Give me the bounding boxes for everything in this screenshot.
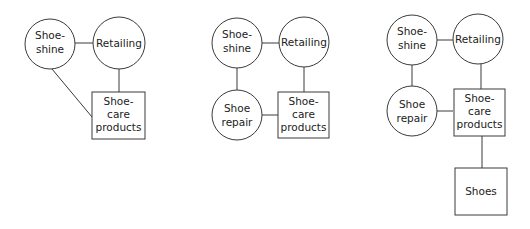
node-label: Shoes bbox=[465, 185, 497, 197]
node-label: shine bbox=[36, 43, 64, 55]
node-label: repair bbox=[222, 116, 254, 128]
diagram-2: Shoe- shine Retailing Shoe repair Shoe- … bbox=[212, 17, 329, 140]
node-label: care bbox=[292, 108, 315, 120]
node-label: products bbox=[281, 121, 327, 133]
node-label: Shoe- bbox=[465, 92, 495, 104]
node-shoe-repair: Shoe repair bbox=[212, 90, 262, 140]
node-shoeshine: Shoe- shine bbox=[212, 18, 262, 68]
node-label: products bbox=[457, 118, 503, 130]
node-label: Retailing bbox=[96, 37, 142, 49]
diagram-1: Shoe- shine Retailing Shoe- care product… bbox=[25, 17, 145, 139]
node-label: Retailing bbox=[455, 33, 501, 45]
node-shoeshine: Shoe- shine bbox=[25, 19, 75, 69]
node-label: Shoe bbox=[399, 98, 425, 110]
node-retailing: Retailing bbox=[279, 17, 329, 67]
node-retailing: Retailing bbox=[453, 14, 503, 64]
node-shoes: Shoes bbox=[455, 168, 507, 215]
node-label: Retailing bbox=[281, 36, 327, 48]
node-label: shine bbox=[398, 39, 426, 51]
node-shoecare-products: Shoe- care products bbox=[454, 89, 505, 136]
node-label: shine bbox=[223, 42, 251, 54]
node-label: Shoe bbox=[224, 102, 250, 114]
node-shoeshine: Shoe- shine bbox=[387, 15, 437, 65]
diagram-canvas: Shoe- shine Retailing Shoe- care product… bbox=[0, 0, 530, 229]
node-label: care bbox=[107, 108, 130, 120]
node-label: care bbox=[468, 105, 491, 117]
node-label: Shoe- bbox=[222, 28, 252, 40]
node-shoe-repair: Shoe repair bbox=[387, 86, 437, 136]
node-label: Shoe- bbox=[104, 95, 134, 107]
node-shoecare-products: Shoe- care products bbox=[92, 92, 145, 139]
node-label: products bbox=[96, 121, 142, 133]
node-label: repair bbox=[397, 112, 429, 124]
node-label: Shoe- bbox=[35, 29, 65, 41]
diagram-3: Shoe- shine Retailing Shoe repair Shoe- … bbox=[387, 14, 507, 215]
edge-shoeshine-shoecare bbox=[52, 69, 92, 117]
node-label: Shoe- bbox=[289, 95, 319, 107]
node-label: Shoe- bbox=[397, 25, 427, 37]
node-shoecare-products: Shoe- care products bbox=[278, 92, 329, 138]
node-retailing: Retailing bbox=[93, 17, 145, 69]
